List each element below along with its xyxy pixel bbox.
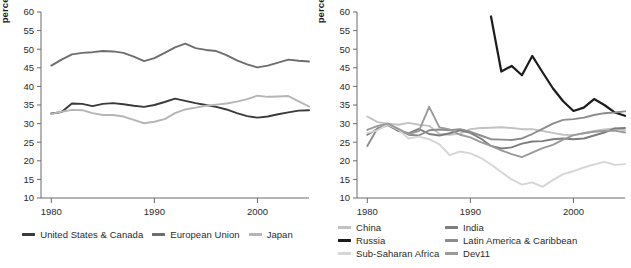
y-tick-label: 30	[339, 118, 350, 129]
legend-right: ChinaIndiaRussiaLatin America & Caribbea…	[316, 222, 631, 259]
y-tick-label: 15	[339, 174, 350, 185]
legend-swatch-russia	[338, 239, 351, 243]
y-tick-label: 10	[23, 192, 34, 203]
legend-swatch-sub-saharan-africa	[338, 252, 351, 255]
series-line-european-union	[51, 44, 309, 68]
legend-item-dev11[interactable]: Dev11	[445, 248, 620, 259]
plot-svg-right: 1015202530354045505560198019902000	[316, 0, 631, 222]
legend-swatch-latin-america-caribbean	[445, 239, 458, 242]
legend-label-latin-america-caribbean: Latin America & Caribbean	[463, 235, 577, 246]
figure-two-line-charts: percent of GDP 1015202530354045505560198…	[0, 0, 631, 268]
legend-item-latin-america-caribbean[interactable]: Latin America & Caribbean	[445, 235, 620, 246]
legend-label-russia: Russia	[356, 235, 385, 246]
legend-label-united-states-canada: United States & Canada	[40, 228, 143, 241]
y-tick-label: 50	[23, 44, 34, 55]
legend-item-russia[interactable]: Russia	[338, 235, 443, 246]
legend-item-japan[interactable]: Japan	[249, 228, 293, 241]
x-tick-label: 1980	[41, 206, 62, 217]
series-line-latin-america-caribbean	[367, 111, 625, 146]
y-tick-label: 10	[339, 192, 350, 203]
plot-svg-left: 1015202530354045505560198019902000	[0, 0, 315, 222]
x-tick-label: 1990	[144, 206, 165, 217]
y-tick-label: 45	[23, 62, 34, 73]
legend-left: United States & CanadaEuropean UnionJapa…	[0, 228, 315, 241]
x-tick-label: 2000	[563, 206, 584, 217]
legend-label-sub-saharan-africa: Sub-Saharan Africa	[356, 248, 439, 259]
series-line-russia	[491, 16, 625, 115]
y-tick-label: 25	[339, 137, 350, 148]
chart-panel-left: percent of GDP 1015202530354045505560198…	[0, 0, 315, 268]
legend-label-european-union: European Union	[170, 228, 239, 241]
legend-swatch-european-union	[152, 233, 165, 236]
legend-label-japan: Japan	[267, 228, 293, 241]
y-tick-label: 35	[339, 99, 350, 110]
legend-swatch-china	[338, 226, 351, 229]
y-tick-label: 40	[23, 81, 34, 92]
legend-swatch-india	[445, 226, 458, 229]
series-line-dev11	[367, 107, 625, 157]
y-tick-label: 50	[339, 44, 350, 55]
y-tick-label: 55	[23, 25, 34, 36]
legend-label-india: India	[463, 222, 484, 233]
plot-area-right: 1015202530354045505560198019902000	[316, 0, 631, 222]
y-tick-label: 20	[339, 155, 350, 166]
y-tick-label: 20	[23, 155, 34, 166]
x-tick-label: 2000	[247, 206, 268, 217]
legend-item-united-states-canada[interactable]: United States & Canada	[22, 228, 143, 241]
y-tick-label: 30	[23, 118, 34, 129]
x-tick-label: 1990	[460, 206, 481, 217]
y-tick-label: 40	[339, 81, 350, 92]
x-tick-label: 1980	[357, 206, 378, 217]
y-tick-label: 15	[23, 174, 34, 185]
y-tick-label: 45	[339, 62, 350, 73]
legend-item-european-union[interactable]: European Union	[152, 228, 239, 241]
legend-swatch-japan	[249, 233, 262, 236]
y-tick-label: 35	[23, 99, 34, 110]
legend-swatch-united-states-canada	[22, 233, 35, 237]
y-tick-label: 55	[339, 25, 350, 36]
legend-item-india[interactable]: India	[445, 222, 620, 233]
legend-label-china: China	[356, 222, 381, 233]
legend-item-china[interactable]: China	[338, 222, 443, 233]
series-line-united-states-canada	[51, 99, 309, 118]
legend-label-dev11: Dev11	[463, 248, 490, 259]
chart-panel-right: percent of GDP 1015202530354045505560198…	[316, 0, 631, 268]
plot-area-left: 1015202530354045505560198019902000	[0, 0, 315, 222]
legend-item-sub-saharan-africa[interactable]: Sub-Saharan Africa	[338, 248, 443, 259]
y-tick-label: 60	[23, 6, 34, 17]
legend-swatch-dev11	[445, 252, 458, 255]
y-tick-label: 60	[339, 6, 350, 17]
y-tick-label: 25	[23, 137, 34, 148]
